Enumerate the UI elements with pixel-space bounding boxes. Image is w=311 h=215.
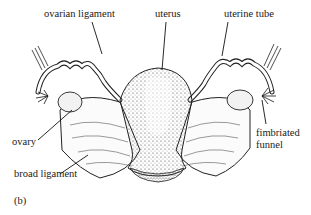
label-fimbriated-funnel-1: fimbriated	[256, 127, 300, 139]
right-ovary	[227, 90, 253, 110]
label-uterine-tube: uterine tube	[224, 8, 274, 20]
uterine-tube-leader	[222, 22, 228, 56]
panel-label: (b)	[14, 195, 26, 207]
left-ovary	[58, 92, 82, 112]
fimbriated-funnel-leader	[262, 100, 266, 124]
uterus-leader	[162, 22, 166, 70]
uterus-diagram	[0, 0, 311, 215]
label-ovarian-ligament: ovarian ligament	[44, 8, 115, 20]
label-broad-ligament: broad ligament	[14, 168, 77, 180]
right-fimbriae	[262, 88, 276, 104]
ovarian-ligament-leader	[92, 22, 102, 54]
label-ovary: ovary	[12, 136, 36, 148]
label-fimbriated-funnel-2: funnel	[256, 139, 283, 151]
label-uterus: uterus	[155, 8, 181, 20]
